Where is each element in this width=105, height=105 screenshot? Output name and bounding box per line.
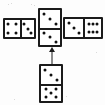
pip <box>26 27 29 30</box>
pip <box>44 68 47 71</box>
right-domino[interactable] <box>63 17 103 39</box>
pip <box>96 31 99 34</box>
pip <box>92 22 95 25</box>
bottom-domino[interactable] <box>39 64 63 103</box>
pip <box>54 22 57 25</box>
pip <box>55 78 58 81</box>
domino-puzzle-figure <box>0 0 105 105</box>
right-domino-half-a <box>65 19 83 37</box>
pip <box>43 12 46 15</box>
scan-speckle <box>34 5 35 6</box>
scan-speckle <box>66 96 67 97</box>
up-arrow <box>47 47 56 64</box>
pip <box>44 96 47 99</box>
pip <box>44 88 47 91</box>
bottom-domino-half-b <box>41 84 61 102</box>
pip <box>49 36 52 39</box>
scan-speckle <box>11 3 12 4</box>
pip <box>96 22 99 25</box>
scan-speckle <box>31 4 32 5</box>
pip <box>55 88 58 91</box>
pip <box>73 27 76 30</box>
pip <box>67 21 70 24</box>
scan-speckle <box>8 4 9 5</box>
bottom-domino-half-a <box>41 66 61 84</box>
left-domino-half-a <box>5 20 20 37</box>
pip <box>87 31 90 34</box>
center-domino[interactable] <box>38 8 62 47</box>
left-domino[interactable] <box>3 18 36 39</box>
pip <box>15 23 18 26</box>
scan-speckle <box>96 52 97 53</box>
scan-speckle <box>14 99 15 100</box>
pip <box>49 17 52 20</box>
pip <box>54 40 57 43</box>
pip <box>7 31 10 34</box>
pip <box>23 22 26 25</box>
pip <box>43 31 46 34</box>
pip <box>92 31 95 34</box>
right-domino-half-b <box>83 19 101 37</box>
center-domino-half-b <box>40 28 60 46</box>
center-domino-half-a <box>40 10 60 28</box>
pip <box>15 31 18 34</box>
left-domino-half-b <box>20 20 35 37</box>
pip <box>55 96 58 99</box>
pip <box>50 73 53 76</box>
pip <box>50 92 53 95</box>
pip <box>78 32 81 35</box>
pip <box>7 23 10 26</box>
pip <box>87 22 90 25</box>
arrow-shaft <box>51 51 52 64</box>
pip <box>30 32 33 35</box>
